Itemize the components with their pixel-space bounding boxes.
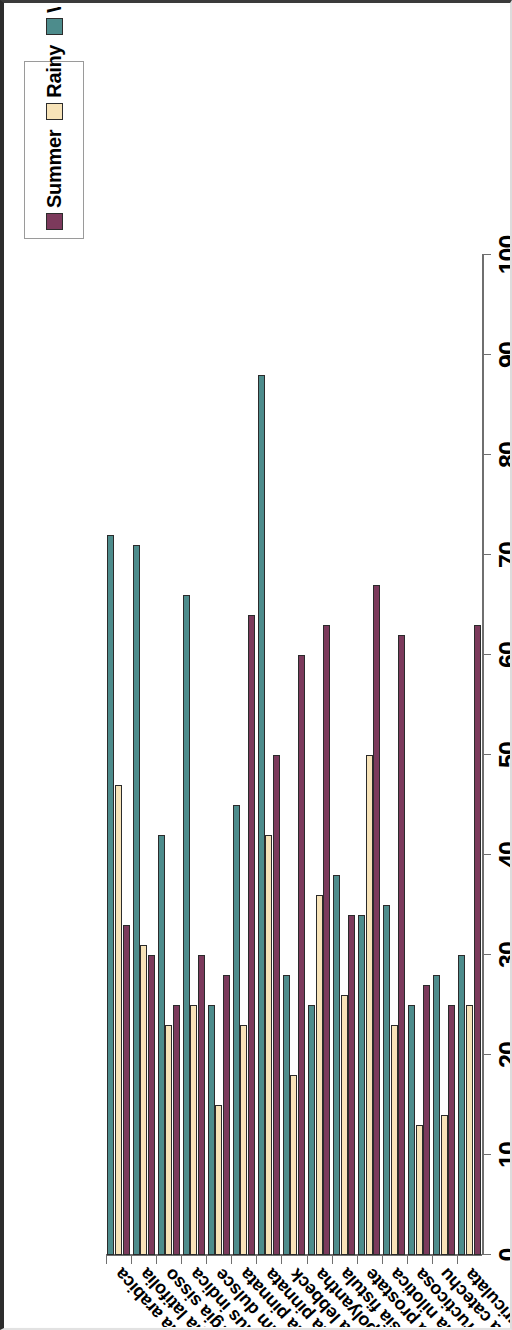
bar-winter[interactable] (408, 1005, 415, 1255)
bar-winter[interactable] (458, 955, 465, 1255)
bar-group (333, 255, 355, 1255)
bar-group (383, 255, 405, 1255)
bar-group (208, 255, 230, 1255)
bar-winter[interactable] (183, 595, 190, 1255)
bar-summer[interactable] (123, 925, 130, 1255)
bar-chart: SummerRainyWinter 0102030405060708090100… (10, 7, 510, 1327)
category-axis-tick (131, 1255, 132, 1264)
bar-summer[interactable] (423, 985, 430, 1255)
bar-group (408, 255, 430, 1255)
bar-summer[interactable] (373, 585, 380, 1255)
bar-rainy[interactable] (215, 1105, 222, 1255)
value-axis (482, 255, 484, 1255)
category-axis-tick (382, 1255, 383, 1264)
bar-winter[interactable] (208, 1005, 215, 1255)
chart-paper: SummerRainyWinter 0102030405060708090100… (10, 7, 510, 1327)
bar-rainy[interactable] (115, 785, 122, 1255)
bar-summer[interactable] (223, 975, 230, 1255)
bar-winter[interactable] (158, 835, 165, 1255)
bar-winter[interactable] (233, 805, 240, 1255)
value-axis-tick (482, 554, 491, 555)
value-axis-tick (482, 1154, 491, 1155)
bar-summer[interactable] (448, 1005, 455, 1255)
bar-summer[interactable] (273, 755, 280, 1255)
value-axis-tick-label: 30 (494, 942, 510, 968)
bar-summer[interactable] (248, 615, 255, 1255)
category-axis-tick (231, 1255, 232, 1264)
bar-summer[interactable] (474, 625, 481, 1255)
legend-entry-summer[interactable]: Summer (43, 130, 66, 230)
bar-group (133, 255, 155, 1255)
value-axis-tick-label: 100 (494, 236, 510, 275)
bar-rainy[interactable] (140, 945, 147, 1255)
bar-rainy[interactable] (341, 995, 348, 1255)
rotated-chart-stage: SummerRainyWinter 0102030405060708090100… (10, 7, 510, 1327)
bar-rainy[interactable] (165, 1025, 172, 1255)
bar-summer[interactable] (348, 915, 355, 1255)
category-axis-tick (332, 1255, 333, 1264)
bar-winter[interactable] (133, 545, 140, 1255)
bar-winter[interactable] (383, 905, 390, 1255)
bar-rainy[interactable] (190, 1005, 197, 1255)
legend-swatch-icon (46, 103, 63, 120)
bar-group (358, 255, 380, 1255)
value-axis-tick (482, 1054, 491, 1055)
bar-group (183, 255, 205, 1255)
plot-area: 0102030405060708090100Cassia auriculataA… (106, 255, 482, 1255)
category-axis-tick (307, 1255, 308, 1264)
bar-winter[interactable] (107, 535, 114, 1255)
value-axis-tick (482, 854, 491, 855)
value-axis-tick (482, 1254, 491, 1255)
category-axis-tick (181, 1255, 182, 1264)
legend-swatch-icon (46, 213, 63, 230)
value-axis-tick (482, 754, 491, 755)
bar-rainy[interactable] (416, 1125, 423, 1255)
legend-entry-rainy[interactable]: Rainy (43, 45, 66, 120)
bar-winter[interactable] (433, 975, 440, 1255)
bar-rainy[interactable] (265, 835, 272, 1255)
value-axis-tick-label: 50 (494, 742, 510, 768)
value-axis-tick-label: 10 (494, 1142, 510, 1168)
category-axis-tick (256, 1255, 257, 1264)
bar-group (308, 255, 330, 1255)
bar-group (283, 255, 305, 1255)
bar-rainy[interactable] (316, 895, 323, 1255)
bar-rainy[interactable] (240, 1025, 247, 1255)
category-axis-tick (156, 1255, 157, 1264)
value-axis-tick (482, 254, 491, 255)
bar-winter[interactable] (308, 1005, 315, 1255)
scanned-page-frame: SummerRainyWinter 0102030405060708090100… (0, 0, 512, 1330)
bar-rainy[interactable] (466, 1005, 473, 1255)
bar-summer[interactable] (148, 955, 155, 1255)
bar-winter[interactable] (258, 375, 265, 1255)
chart-legend: SummerRainyWinter (24, 61, 84, 239)
bar-winter[interactable] (333, 875, 340, 1255)
bar-winter[interactable] (358, 915, 365, 1255)
bar-summer[interactable] (198, 955, 205, 1255)
legend-entry-winter[interactable]: Winter (43, 7, 66, 35)
bar-rainy[interactable] (441, 1115, 448, 1255)
category-axis-tick (407, 1255, 408, 1264)
legend-label: Summer (43, 130, 66, 208)
bar-rainy[interactable] (366, 755, 373, 1255)
legend-label: Winter (43, 7, 66, 13)
bar-group (158, 255, 180, 1255)
value-axis-tick-label: 60 (494, 642, 510, 668)
bar-group (458, 255, 480, 1255)
value-axis-tick (482, 354, 491, 355)
bar-summer[interactable] (298, 655, 305, 1255)
bar-summer[interactable] (323, 625, 330, 1255)
category-axis-tick (106, 1255, 107, 1264)
bar-winter[interactable] (283, 975, 290, 1255)
bar-group (107, 255, 129, 1255)
bar-summer[interactable] (398, 635, 405, 1255)
value-axis-tick-label: 0 (494, 1249, 510, 1262)
bar-group (433, 255, 455, 1255)
bar-rainy[interactable] (290, 1075, 297, 1255)
value-axis-tick-label: 70 (494, 542, 510, 568)
bar-rainy[interactable] (391, 1025, 398, 1255)
category-axis-tick (457, 1255, 458, 1264)
category-axis-tick (206, 1255, 207, 1264)
category-axis-tick (357, 1255, 358, 1264)
bar-summer[interactable] (173, 1005, 180, 1255)
